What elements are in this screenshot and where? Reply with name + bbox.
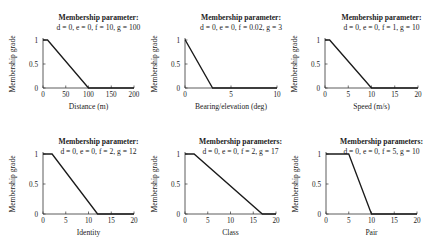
- chart-panel-identity: Membership parameter:d = 0, e = 0, f = 2…: [8, 137, 138, 237]
- x-tick-label: 50: [62, 91, 70, 99]
- membership-charts-grid: Membership parameter:d = 0, e = 0, f = 1…: [0, 0, 437, 252]
- x-tick-label: 20: [272, 217, 280, 225]
- chart-title: Membership parameter:: [59, 137, 139, 146]
- x-tick-label: 200: [129, 91, 140, 99]
- x-tick-label: 20: [413, 217, 421, 225]
- y-tick-label: 0.5: [312, 181, 321, 189]
- x-tick-label: 15: [108, 217, 116, 225]
- chart-parameters: d = 0, e = 0, f = 0.02, g = 3: [200, 23, 282, 32]
- chart-title: Membership parameters:: [340, 137, 423, 146]
- x-tick-label: 10: [85, 217, 93, 225]
- chart-title: Membership parameter:: [59, 13, 139, 22]
- x-tick-label: 5: [229, 91, 233, 99]
- chart-title: Membership parameter:: [342, 13, 422, 22]
- x-tick-label: 5: [346, 91, 350, 99]
- y-tick-label: 0: [176, 211, 180, 219]
- x-tick-label: 15: [250, 217, 258, 225]
- x-tick-label: 15: [391, 91, 399, 99]
- y-tick-label: 0: [317, 211, 321, 219]
- y-tick-label: 0: [316, 85, 320, 93]
- x-tick-label: 5: [64, 217, 68, 225]
- x-tick-label: 20: [130, 217, 138, 225]
- chart-parameters: d = 0, e = 0, f = 1, g = 10: [343, 23, 419, 32]
- membership-function-line: [185, 40, 277, 88]
- chart-panel-bearing: Membership parameter:d = 0, e = 0, f = 0…: [150, 13, 282, 111]
- chart-parameters: d = 0, e = 0, f = 2, g = 17: [202, 147, 278, 156]
- x-tick-label: 20: [414, 91, 422, 99]
- y-axis-label: Membership grade: [150, 155, 159, 213]
- x-tick-label: 0: [41, 91, 45, 99]
- x-tick-label: 0: [183, 91, 187, 99]
- y-tick-label: 0.5: [171, 61, 180, 69]
- y-axis-label: Membership grade: [8, 155, 17, 213]
- chart-panel-pair: Membership parameters:d = 0, e = 0, f = …: [291, 137, 423, 237]
- x-axis-label: Pair: [365, 228, 378, 237]
- x-axis-label: Bearing/elevation (deg): [195, 102, 267, 111]
- y-tick-label: 0.5: [311, 61, 320, 69]
- x-tick-label: 15: [391, 217, 399, 225]
- chart-panel-speed: Membership parameter:d = 0, e = 0, f = 1…: [290, 13, 422, 111]
- chart-parameters: d = 0, e = 0, f = 2, g = 12: [60, 147, 136, 156]
- membership-function-line: [185, 154, 276, 214]
- y-tick-label: 1: [317, 151, 321, 159]
- x-tick-label: 0: [324, 217, 328, 225]
- chart-parameters: d = 0, e = 0, f = 10, g = 100: [57, 23, 141, 32]
- charts-canvas: Membership parameter:d = 0, e = 0, f = 1…: [0, 0, 437, 252]
- chart-panel-distance: Membership parameter:d = 0, e = 0, f = 1…: [8, 13, 141, 111]
- y-tick-label: 1: [34, 37, 38, 45]
- x-axis-label: Distance (m): [69, 102, 109, 111]
- y-tick-label: 1: [176, 151, 180, 159]
- y-tick-label: 1: [176, 37, 180, 45]
- x-tick-label: 0: [41, 217, 45, 225]
- x-tick-label: 0: [183, 217, 187, 225]
- y-tick-label: 0.5: [171, 181, 180, 189]
- y-axis-label: Membership grade: [8, 35, 17, 93]
- y-axis-label: Membership grade: [291, 155, 300, 213]
- y-tick-label: 0: [176, 85, 180, 93]
- y-axis-label: Membership grade: [150, 35, 159, 93]
- y-tick-label: 0.5: [29, 181, 38, 189]
- x-axis-label: Class: [222, 228, 239, 237]
- chart-panel-class: Membership parameters:d = 0, e = 0, f = …: [150, 137, 282, 237]
- x-tick-label: 10: [227, 217, 235, 225]
- y-tick-label: 1: [316, 37, 320, 45]
- y-tick-label: 0: [34, 211, 38, 219]
- y-tick-label: 0: [34, 85, 38, 93]
- y-tick-label: 1: [34, 151, 38, 159]
- x-tick-label: 10: [368, 217, 376, 225]
- chart-title: Membership parameters:: [199, 137, 282, 146]
- x-axis-label: Identity: [77, 228, 101, 237]
- y-tick-label: 0.5: [29, 61, 38, 69]
- x-tick-label: 5: [206, 217, 210, 225]
- membership-function-line: [325, 40, 418, 88]
- x-tick-label: 100: [83, 91, 94, 99]
- x-tick-label: 5: [347, 217, 351, 225]
- membership-function-line: [326, 154, 417, 214]
- chart-parameters: d = 0, e = 0, f = 5, g = 10: [343, 147, 419, 156]
- x-tick-label: 150: [106, 91, 117, 99]
- membership-function-line: [43, 40, 134, 88]
- x-tick-label: 0: [323, 91, 327, 99]
- membership-function-line: [43, 154, 134, 214]
- y-axis-label: Membership grade: [290, 35, 299, 93]
- x-axis-label: Speed (m/s): [353, 102, 390, 111]
- chart-title: Membership parameter:: [201, 13, 281, 22]
- x-tick-label: 10: [368, 91, 376, 99]
- x-tick-label: 10: [273, 91, 281, 99]
